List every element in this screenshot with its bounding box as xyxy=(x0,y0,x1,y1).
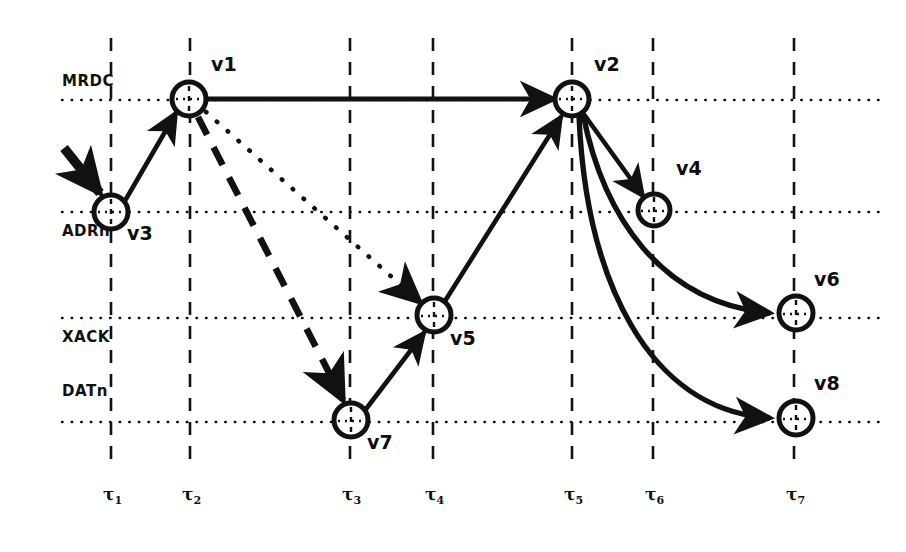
tau-subscript-2: 2 xyxy=(193,494,201,507)
signal-label-xack: XACK xyxy=(62,328,110,346)
edge-v1-v7 xyxy=(198,117,343,400)
signal-label-datn: DATn xyxy=(62,382,108,400)
time-label-tau1: τ1 xyxy=(103,484,122,504)
node-label-v8: v8 xyxy=(814,372,840,394)
tau-symbol-4: τ xyxy=(425,484,436,504)
signal-label-mrdc: MRDC xyxy=(62,72,114,90)
edge-v3-v1 xyxy=(126,113,176,199)
tau-subscript-6: 6 xyxy=(656,494,664,507)
time-gridlines xyxy=(111,38,794,468)
node-label-v5: v5 xyxy=(450,327,476,349)
time-label-tau7: τ7 xyxy=(786,484,805,504)
tau-symbol-2: τ xyxy=(182,484,193,504)
edge-entry-v3 xyxy=(64,148,100,193)
edge-v2-v8 xyxy=(579,116,770,418)
edge-v5-v2 xyxy=(445,117,561,301)
signal-transition-graph-figure: MRDC ADRn XACK DATn v1 v2 v3 v4 v5 v6 v7… xyxy=(0,0,906,552)
tau-symbol-1: τ xyxy=(103,484,114,504)
node-label-v3: v3 xyxy=(127,222,153,244)
graph-nodes xyxy=(94,82,813,437)
time-label-tau6: τ6 xyxy=(645,484,664,504)
time-label-tau2: τ2 xyxy=(182,484,201,504)
tau-subscript-4: 4 xyxy=(436,494,444,507)
node-label-v1: v1 xyxy=(211,53,237,75)
graph-edges xyxy=(64,99,770,418)
tau-symbol-5: τ xyxy=(564,484,575,504)
tau-subscript-1: 1 xyxy=(114,494,122,507)
node-crosshairs xyxy=(98,86,809,433)
time-label-tau3: τ3 xyxy=(342,484,361,504)
time-label-tau5: τ5 xyxy=(564,484,583,504)
node-label-v4: v4 xyxy=(676,157,702,179)
edge-v7-v5 xyxy=(366,333,424,409)
node-label-v2: v2 xyxy=(594,53,620,75)
tau-symbol-7: τ xyxy=(786,484,797,504)
tau-subscript-3: 3 xyxy=(353,494,361,507)
diagram-canvas xyxy=(0,0,906,552)
edge-v1-v5 xyxy=(206,112,420,302)
signal-label-adrn: ADRn xyxy=(62,222,110,240)
tau-subscript-5: 5 xyxy=(575,494,583,507)
node-label-v7: v7 xyxy=(367,431,393,453)
tau-symbol-6: τ xyxy=(645,484,656,504)
tau-subscript-7: 7 xyxy=(797,494,805,507)
node-label-v6: v6 xyxy=(814,268,840,290)
time-label-tau4: τ4 xyxy=(425,484,444,504)
tau-symbol-3: τ xyxy=(342,484,353,504)
